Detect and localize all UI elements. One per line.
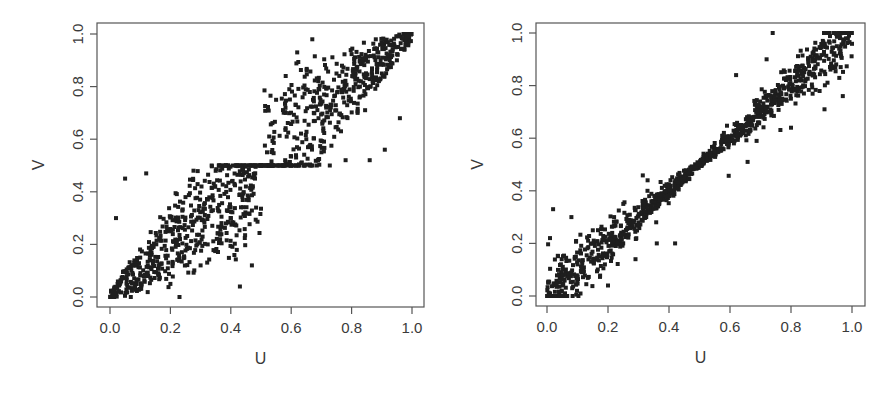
data-point <box>641 219 645 223</box>
data-point <box>315 76 319 80</box>
data-point <box>123 294 127 298</box>
data-point <box>251 186 255 190</box>
data-point <box>356 85 360 89</box>
data-point <box>385 67 389 71</box>
data-point <box>263 88 267 92</box>
data-point <box>121 270 125 274</box>
data-point <box>164 230 168 234</box>
data-point <box>278 164 282 168</box>
data-point <box>548 236 552 240</box>
data-point <box>835 44 839 48</box>
data-point <box>832 39 836 43</box>
data-point <box>564 294 568 298</box>
data-point <box>128 260 132 264</box>
data-point <box>248 212 252 216</box>
data-point <box>796 54 800 58</box>
data-point <box>148 276 152 280</box>
data-point <box>308 163 312 167</box>
data-point <box>184 195 188 199</box>
data-point <box>148 254 152 258</box>
data-point <box>727 139 731 143</box>
data-point <box>546 242 550 246</box>
data-point <box>734 73 738 77</box>
data-point <box>114 216 118 220</box>
data-point <box>777 99 781 103</box>
data-point <box>199 249 203 253</box>
data-point <box>238 285 242 289</box>
data-point <box>131 281 135 285</box>
data-point <box>138 248 142 252</box>
data-point <box>569 215 573 219</box>
data-point <box>295 115 299 119</box>
data-point <box>178 295 182 299</box>
data-point <box>735 121 739 125</box>
data-point <box>219 232 223 236</box>
data-point <box>612 215 616 219</box>
data-point <box>238 169 242 173</box>
data-point <box>312 99 316 103</box>
x-tick-label: 1.0 <box>842 318 863 335</box>
data-point <box>824 31 828 35</box>
data-point <box>299 68 303 72</box>
data-point <box>263 144 267 148</box>
data-point <box>254 206 258 210</box>
data-point <box>236 164 240 168</box>
data-point <box>250 263 254 267</box>
data-point <box>322 57 326 61</box>
data-point <box>180 241 184 245</box>
data-point <box>211 196 215 200</box>
data-point <box>295 120 299 124</box>
x-tick-label: 0.6 <box>720 318 741 335</box>
data-point <box>182 254 186 258</box>
data-point <box>590 252 594 256</box>
data-point <box>206 198 210 202</box>
data-point <box>164 220 168 224</box>
data-point <box>189 239 193 243</box>
data-point <box>782 77 786 81</box>
x-axis: 0.00.20.40.60.81.0U <box>100 307 423 367</box>
data-point <box>328 121 332 125</box>
data-point <box>151 259 155 263</box>
data-point <box>115 287 119 291</box>
data-point <box>389 65 393 69</box>
data-point <box>220 215 224 219</box>
data-point <box>682 176 686 180</box>
data-point <box>176 205 180 209</box>
data-point <box>794 65 798 69</box>
data-point <box>579 244 583 248</box>
data-point <box>156 271 160 275</box>
data-point <box>841 70 845 74</box>
data-point <box>637 212 641 216</box>
data-point <box>352 89 356 93</box>
data-point <box>735 133 739 137</box>
data-point <box>607 244 611 248</box>
data-point <box>274 98 278 102</box>
data-point <box>343 79 347 83</box>
data-point <box>292 147 296 151</box>
data-point <box>312 96 316 100</box>
data-point <box>395 52 399 56</box>
y-tick-label: 0.0 <box>69 287 86 308</box>
data-point <box>759 105 763 109</box>
data-point <box>229 205 233 209</box>
data-point <box>336 85 340 89</box>
data-point <box>832 58 836 62</box>
data-point <box>334 108 338 112</box>
data-point <box>248 222 252 226</box>
data-point <box>364 56 368 60</box>
data-point <box>727 174 731 178</box>
data-point <box>340 64 344 68</box>
data-point <box>395 58 399 62</box>
data-point <box>704 153 708 157</box>
data-point <box>189 215 193 219</box>
data-point <box>164 256 168 260</box>
data-point <box>226 181 230 185</box>
data-point <box>242 212 246 216</box>
data-point <box>847 34 851 38</box>
data-point <box>762 125 766 129</box>
data-point <box>810 83 814 87</box>
data-point <box>754 103 758 107</box>
data-point <box>286 121 290 125</box>
data-point <box>347 95 351 99</box>
data-point <box>818 89 822 93</box>
